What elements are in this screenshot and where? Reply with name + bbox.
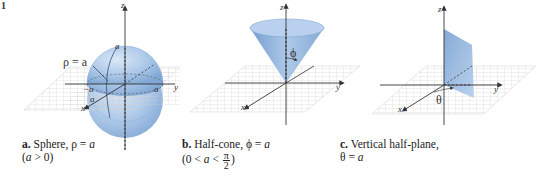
y-axis-label: y bbox=[173, 82, 178, 92]
caption-a-letter: a. bbox=[22, 138, 31, 150]
caption-c-letter: c. bbox=[340, 138, 348, 150]
panel-a-sphere: ρ = a z y x a −a a a bbox=[24, 0, 180, 150]
caption-a-eq: = bbox=[77, 138, 89, 150]
caption-c-value: a bbox=[358, 151, 364, 163]
pi-over-2-fraction: π2 bbox=[223, 151, 230, 170]
x-axis-label: x bbox=[240, 102, 245, 112]
cone-top bbox=[250, 19, 324, 37]
caption-b-eq: = bbox=[252, 138, 264, 150]
fraction-denominator: 2 bbox=[223, 161, 230, 170]
y-axis-label: y bbox=[493, 84, 498, 94]
caption-b-value: a bbox=[264, 138, 270, 150]
caption-c: c. Vertical half-plane, θ = a bbox=[340, 138, 439, 164]
caption-b-cond-suffix: ) bbox=[231, 153, 235, 165]
x-axis-label: x bbox=[80, 103, 85, 113]
caption-b-title: Half-cone, bbox=[194, 138, 246, 150]
sphere-annotation: ρ = a bbox=[63, 55, 88, 69]
tick-left: −a bbox=[83, 84, 94, 94]
tick-front: a bbox=[90, 94, 95, 104]
x-axis-label: x bbox=[397, 104, 402, 114]
caption-c-title: Vertical half-plane, bbox=[351, 138, 439, 150]
theta-annotation: θ bbox=[436, 93, 442, 107]
caption-b-letter: b. bbox=[182, 138, 191, 150]
tick-right: a bbox=[154, 84, 159, 94]
caption-b-cond-prefix: (0 < bbox=[182, 153, 204, 165]
caption-a-value: a bbox=[89, 138, 95, 150]
panel-c-vertical-half-plane: θ z y x bbox=[372, 4, 536, 125]
z-axis-label: z bbox=[279, 2, 284, 12]
phi-annotation: ϕ bbox=[290, 46, 296, 60]
tick-top: a bbox=[115, 41, 120, 51]
xy-grid-plane bbox=[190, 66, 360, 112]
caption-b-cond-lt: < bbox=[210, 153, 222, 165]
z-axis-label: z bbox=[437, 4, 442, 14]
y-axis-label: y bbox=[335, 82, 340, 92]
caption-a: a. Sphere, ρ = a (a > 0) bbox=[22, 138, 95, 164]
caption-a-title: Sphere, bbox=[34, 138, 72, 150]
caption-c-eq: = bbox=[346, 151, 358, 163]
caption-b: b. Half-cone, ϕ = a (0 < a < π2) bbox=[182, 138, 270, 170]
panel-b-half-cone: ϕ z y x bbox=[190, 2, 360, 125]
caption-a-cond-rest: > 0) bbox=[32, 151, 54, 163]
z-axis-label: z bbox=[120, 0, 125, 10]
